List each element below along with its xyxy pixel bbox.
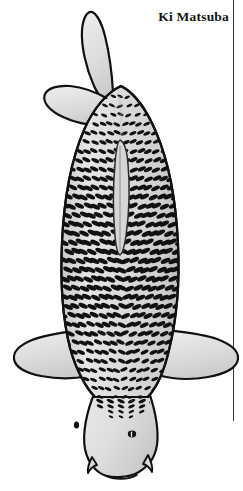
- eye-right: [128, 431, 136, 438]
- illustration-page: Ki Matsuba: [0, 0, 243, 491]
- eye-left: [74, 421, 79, 428]
- koi-fish-illustration: [0, 0, 243, 491]
